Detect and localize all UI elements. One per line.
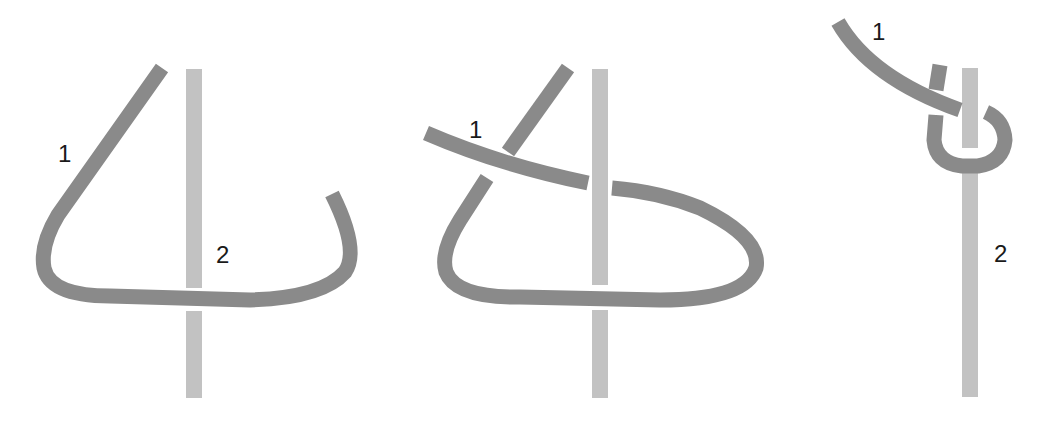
rope-1-label: 1 [469,116,482,143]
rope-2-lower-segment [186,311,202,398]
rope-2-label: 2 [216,241,229,268]
rope-1-stub-end [936,65,940,90]
panel-step-2: 1 [426,68,757,398]
rope-1-label: 1 [872,18,885,45]
panel-step-3: 1 2 [838,18,1007,397]
rope-2-label: 2 [994,240,1007,267]
rope-2-upper-segment [962,68,978,148]
rope-2-upper-segment [592,69,608,285]
rope-2-lower-segment [962,172,978,397]
rope-2-lower-segment [592,310,608,398]
panel-step-1: 1 2 [43,68,350,398]
rope-1-diagonal-upper [508,68,568,152]
knot-diagram: 1 2 1 1 2 [0,0,1039,422]
rope-2-upper-segment [186,69,202,288]
rope-1-label: 1 [58,140,71,167]
